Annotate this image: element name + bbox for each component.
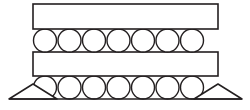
diagram-canvas <box>0 0 250 110</box>
roller <box>132 29 155 52</box>
roller <box>107 29 130 52</box>
roller <box>83 76 106 99</box>
roller <box>83 29 106 52</box>
roller <box>34 29 57 52</box>
roller <box>58 76 81 99</box>
roller <box>156 29 179 52</box>
top-plate <box>33 4 218 29</box>
roller <box>58 29 81 52</box>
middle-plate <box>33 52 218 76</box>
roller-assembly-diagram <box>0 0 250 110</box>
roller <box>132 76 155 99</box>
roller <box>181 29 204 52</box>
roller <box>107 76 130 99</box>
roller <box>156 76 179 99</box>
